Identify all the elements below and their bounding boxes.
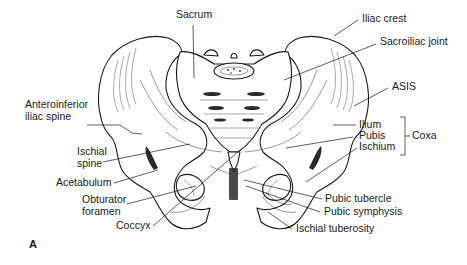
- label-pubic-tubercle: Pubic tubercle: [325, 193, 392, 205]
- label-obturator-foramen-line2: foramen: [82, 206, 121, 218]
- label-iliac-crest: Iliac crest: [362, 13, 406, 25]
- pelvis-diagram: Sacrum Iliac crest Sacroiliac joint ASIS…: [0, 0, 467, 265]
- label-ischial-tuberosity: Ischial tuberosity: [296, 223, 374, 235]
- label-asis: ASIS: [392, 81, 416, 93]
- label-ischial-spine-line1: Ischial: [77, 146, 107, 158]
- label-sacrum: Sacrum: [176, 9, 212, 21]
- label-coccyx: Coccyx: [116, 220, 150, 232]
- label-pubic-symphysis: Pubic symphysis: [324, 206, 402, 218]
- label-acetabulum: Acetabulum: [56, 177, 111, 189]
- label-sacroiliac-joint: Sacroiliac joint: [380, 36, 448, 48]
- pubic-symphysis-shape: [229, 168, 238, 200]
- label-ischial-spine-line2: spine: [77, 158, 102, 170]
- panel-label: A: [29, 238, 37, 250]
- label-anteroinferior-iliac-spine-line2: iliac spine: [25, 111, 71, 123]
- label-ischium: Ischium: [359, 141, 395, 153]
- label-coxa: Coxa: [412, 130, 437, 142]
- label-obturator-foramen-line1: Obturator: [82, 194, 126, 206]
- label-anteroinferior-iliac-spine-line1: Anteroinferior: [25, 99, 88, 111]
